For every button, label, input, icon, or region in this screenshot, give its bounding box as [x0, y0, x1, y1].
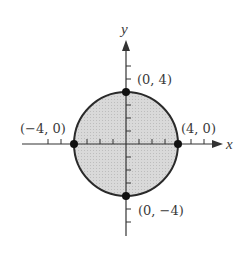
point-right [174, 140, 182, 148]
x-axis-label: x [225, 136, 233, 152]
label-left: (−4, 0) [20, 121, 66, 136]
y-axis-label: y [119, 21, 128, 37]
label-top: (0, 4) [137, 72, 172, 87]
point-bottom [122, 192, 130, 200]
label-bottom: (0, −4) [138, 203, 184, 218]
point-left [70, 140, 78, 148]
label-right: (4, 0) [181, 121, 216, 136]
graph: y x (0, 4) (−4, 0) (4, 0) (0, −4) [0, 0, 246, 255]
point-top [122, 88, 130, 96]
